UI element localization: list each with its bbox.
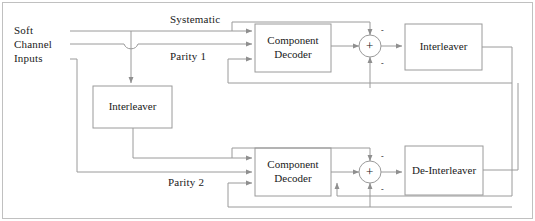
adder-bottom-plus-sign: + bbox=[366, 165, 373, 178]
block-decoder-bottom-label-line1: Component bbox=[255, 158, 331, 171]
parity2-label: Parity 2 bbox=[168, 176, 204, 189]
systematic-label: Systematic bbox=[170, 13, 220, 26]
parity1-label: Parity 1 bbox=[170, 50, 206, 63]
adder-top-minus-bottom-sign: - bbox=[381, 60, 384, 68]
wire-deinterleaver-out bbox=[483, 83, 518, 170]
soft-input-label-line3: Inputs bbox=[14, 52, 43, 65]
wire-interleaver-left-out bbox=[133, 128, 252, 158]
adder-bottom-minus-top-sign: - bbox=[381, 153, 384, 161]
adder-bottom-minus-bottom-sign: - bbox=[381, 186, 384, 194]
turbo-decoder-diagram: Soft Channel Inputs Systematic Parity 1 … bbox=[0, 0, 535, 221]
block-interleaver-right-label: Interleaver bbox=[405, 40, 482, 53]
soft-input-label-line1: Soft bbox=[14, 24, 33, 37]
block-decoder-top-label-line1: Component bbox=[255, 34, 331, 47]
adder-top-minus-top-sign: - bbox=[381, 27, 384, 35]
block-decoder-bottom-label-line2: Decoder bbox=[255, 172, 331, 185]
block-interleaver-left-label: Interleaver bbox=[93, 100, 172, 113]
block-deinterleaver-label: De-Interleaver bbox=[405, 164, 483, 177]
wire-parity2 bbox=[70, 59, 252, 172]
wire-parity1 bbox=[70, 44, 252, 49]
soft-input-label-line2: Channel bbox=[14, 38, 52, 51]
block-decoder-top-label-line2: Decoder bbox=[255, 48, 331, 61]
adder-top-plus-sign: + bbox=[366, 39, 373, 52]
